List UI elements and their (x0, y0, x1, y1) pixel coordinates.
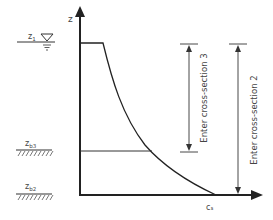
bed-level-zb2: zb2 (16, 182, 53, 200)
hatch-icon (18, 151, 53, 156)
cross-section-2-label: Enter cross-section 2 (249, 75, 259, 164)
arrow-up-icon (186, 45, 192, 52)
water-surface-z1: z1 (17, 32, 55, 50)
zb3-label: zb3 (25, 139, 37, 149)
z-axis-arrowhead-icon (75, 6, 85, 17)
arrow-down-icon (186, 144, 192, 151)
bed-level-zb3: zb3 (16, 139, 53, 156)
concentration-curve (80, 43, 216, 195)
water-surface-triangle-icon (41, 34, 53, 41)
cs-axis-label: cₛ (206, 203, 213, 212)
cross-section-3-label: Enter cross-section 3 (199, 53, 209, 142)
z-axis-label: z (68, 14, 73, 24)
arrow-down-icon (235, 187, 241, 194)
hatch-icon (18, 195, 53, 200)
cs-axis: cₛ (79, 190, 263, 212)
cross-section-3-dimension: Enter cross-section 3 (180, 44, 209, 152)
arrow-up-icon (235, 45, 241, 52)
cs-axis-arrowhead-icon (251, 190, 263, 200)
z-axis: z (68, 6, 85, 196)
cross-section-2-dimension: Enter cross-section 2 (229, 44, 259, 194)
z1-label: z1 (28, 32, 36, 42)
concentration-profile-diagram: z cₛ z1 zb3 zb2 Enter cross-section (0, 0, 273, 220)
zb2-label: zb2 (25, 182, 36, 192)
